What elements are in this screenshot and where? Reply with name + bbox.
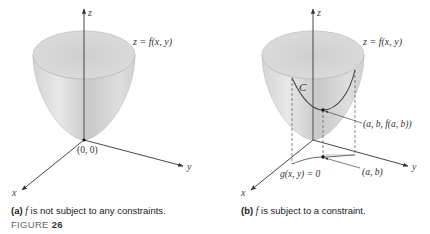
origin-label: (0, 0)	[77, 145, 98, 156]
caption-panel-a: (a) f is not subject to any constraints.	[11, 205, 166, 216]
x-axis-label: x	[240, 187, 246, 198]
caption-tag: (a)	[11, 205, 23, 216]
y-axis	[84, 140, 183, 166]
constraint-label: g(x, y) = 0	[280, 169, 320, 180]
curve-c-label: C	[299, 81, 307, 93]
figure-label-prefix: FIGURE	[11, 219, 49, 230]
y-axis-label: y	[411, 161, 417, 172]
y-axis-label: y	[186, 161, 192, 172]
figure-label-number: 26	[52, 219, 63, 230]
panel-a-diagram: z y x z = f(x, y) (0, 0)	[11, 7, 192, 198]
origin-point	[82, 138, 85, 141]
z-axis-label: z	[87, 7, 92, 18]
caption-text: is subject to a constraint.	[258, 205, 365, 216]
figure-label: FIGURE 26	[11, 219, 63, 230]
x-axis-label: x	[11, 187, 17, 198]
y-axis	[313, 140, 408, 166]
point-2d-label: (a, b)	[362, 167, 383, 178]
x-axis	[22, 140, 84, 190]
panel-b-diagram: z y x z = f(x, y) C (a, b, f(a, b)) (a, …	[240, 7, 417, 198]
point-2d	[321, 155, 324, 158]
surface-label: z = f(x, y)	[362, 36, 403, 48]
x-axis	[251, 140, 313, 190]
caption-tag: (b)	[241, 205, 253, 216]
figure-canvas: z y x z = f(x, y) (0, 0) z y x	[0, 0, 430, 234]
z-axis-label: z	[316, 7, 321, 18]
caption-panel-b: (b) f is subject to a constraint.	[241, 205, 366, 216]
surface-label: z = f(x, y)	[132, 36, 173, 48]
leader-point-2d	[325, 158, 360, 168]
point-3d-label: (a, b, f(a, b))	[363, 119, 412, 130]
point-3d	[321, 108, 324, 111]
caption-text: is not subject to any constraints.	[28, 205, 166, 216]
